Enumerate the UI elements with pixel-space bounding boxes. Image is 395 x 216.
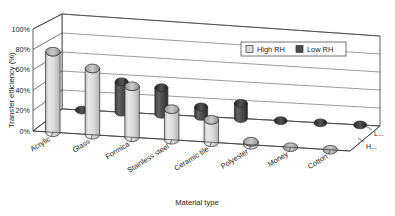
x-category-label-7: Cotton <box>306 152 329 171</box>
bar-high-rh-2 <box>125 82 140 142</box>
y-tick-label: 60% <box>16 65 31 74</box>
x-category-label-2: Formica <box>104 139 132 161</box>
y-tick-label: 40% <box>16 86 31 95</box>
bar-low-rh-6 <box>314 119 327 127</box>
depth-label-low-rh: L... <box>374 130 384 137</box>
bar-high-rh-5 <box>244 137 259 149</box>
legend[interactable]: High RH Low RH <box>241 42 346 56</box>
chart-figure: 100% 80% 60% 40% 20% 0% Transfer efficie… <box>0 0 395 216</box>
legend-label-low-rh: Low RH <box>307 45 333 54</box>
legend-label-high-rh: High RH <box>257 45 285 54</box>
bar-high-rh-0 <box>46 47 61 136</box>
bar-high-rh-3 <box>164 105 179 144</box>
bar-low-rh-4 <box>234 99 247 122</box>
x-category-label-3: Stainless steel <box>126 142 171 175</box>
x-category-label-5: Polyester <box>219 147 250 171</box>
y-tick-label: 100% <box>12 25 31 34</box>
x-category-label-6: Money <box>266 149 290 169</box>
bar-low-rh-7 <box>354 121 367 129</box>
y-axis-title: Transfer efficiency (%) <box>7 52 16 128</box>
x-axis-title: Material type <box>175 198 218 207</box>
legend-swatch-high-rh <box>246 46 253 53</box>
bar-low-rh-5 <box>274 117 287 125</box>
x-category-label-1: Glass <box>71 137 92 155</box>
depth-label-high-rh: H... <box>366 143 377 150</box>
y-tick-label: 80% <box>16 45 31 54</box>
bar-high-rh-1 <box>85 64 100 139</box>
y-tick-label: 0% <box>20 127 31 136</box>
y-tick-label: 20% <box>16 106 31 115</box>
x-category-label-4: Ceramic tile <box>173 144 211 172</box>
chart-svg: 100% 80% 60% 40% 20% 0% Transfer efficie… <box>0 0 395 216</box>
legend-swatch-low-rh <box>296 46 303 53</box>
x-category-label-0: Acrylic <box>29 134 52 153</box>
